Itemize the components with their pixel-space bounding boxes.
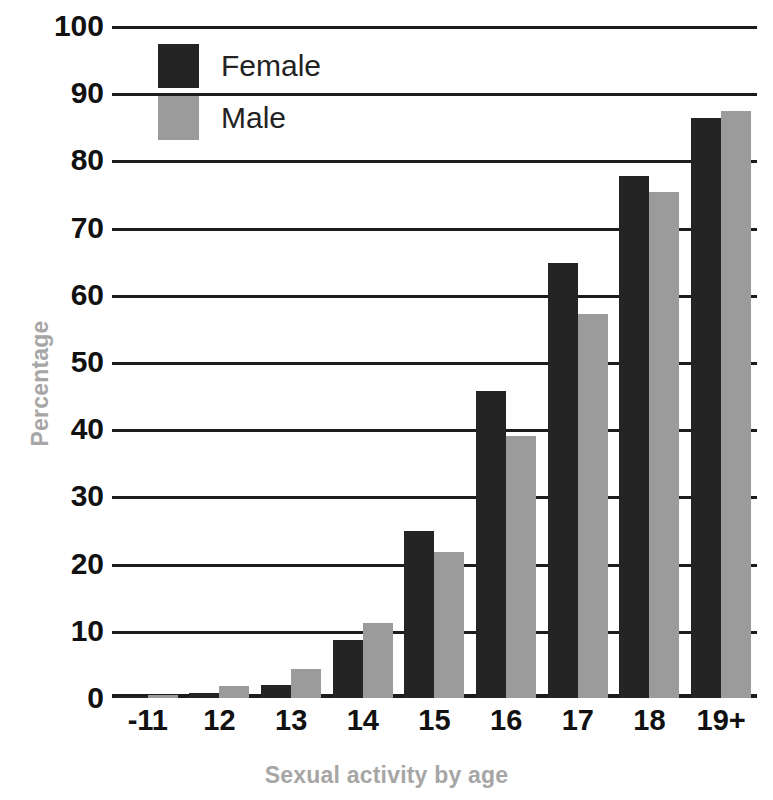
x-axis-tick-label: 19+ [685,706,757,735]
bar-male-18 [649,192,679,698]
bar-male--11 [148,695,178,698]
bar-male-14 [363,623,393,698]
x-axis-tick-label: -11 [112,706,184,735]
legend-item-female: Female [158,40,418,92]
x-axis-tick-label: 17 [542,706,614,735]
bar-male-16 [506,436,536,698]
bar-male-19+ [721,111,751,698]
y-axis-tick-label: 40 [24,414,104,444]
bar-group [470,26,542,698]
bar-chart: Percentage 0102030405060708090100 -11121… [0,0,773,800]
bar-female-17 [548,263,578,698]
y-axis-tick-label: 50 [24,347,104,377]
x-axis-tick-label: 15 [399,706,471,735]
legend-item-male: Male [158,92,418,144]
x-axis-title: Sexual activity by age [0,762,773,789]
x-axis-tick-label: 16 [470,706,542,735]
legend-label-male: Male [221,103,286,133]
bar-group [614,26,686,698]
bar-group [685,26,757,698]
bar-female-13 [261,685,291,698]
bar-female-19+ [691,118,721,698]
bar-female-14 [333,640,363,698]
legend: Female Male [158,40,418,144]
legend-swatch-male-icon [158,96,199,140]
y-axis-tick-label: 70 [24,213,104,243]
bar-group [542,26,614,698]
x-axis-tick-label: 12 [184,706,256,735]
y-axis-tick-label: 80 [24,145,104,175]
y-axis-tick-label: 20 [24,549,104,579]
y-axis-tick-labels: 0102030405060708090100 [0,0,104,800]
x-axis-tick-labels: -111213141516171819+ [112,706,757,746]
bar-female--11 [118,696,148,698]
y-axis-tick-label: 100 [24,11,104,41]
x-axis-tick-label: 18 [614,706,686,735]
bar-female-16 [476,391,506,698]
bar-male-12 [219,686,249,698]
legend-swatch-female-icon [158,44,199,88]
x-axis-tick-label: 13 [255,706,327,735]
bar-female-12 [189,693,219,698]
bar-male-15 [434,552,464,698]
y-axis-tick-label: 10 [24,616,104,646]
bar-male-13 [291,669,321,698]
bar-male-17 [578,314,608,698]
y-axis-tick-label: 30 [24,481,104,511]
x-axis-tick-label: 14 [327,706,399,735]
bar-female-18 [619,176,649,698]
bar-female-15 [404,531,434,698]
y-axis-tick-label: 60 [24,280,104,310]
legend-label-female: Female [221,51,321,81]
y-axis-tick-label: 90 [24,78,104,108]
y-axis-tick-label: 0 [24,683,104,713]
